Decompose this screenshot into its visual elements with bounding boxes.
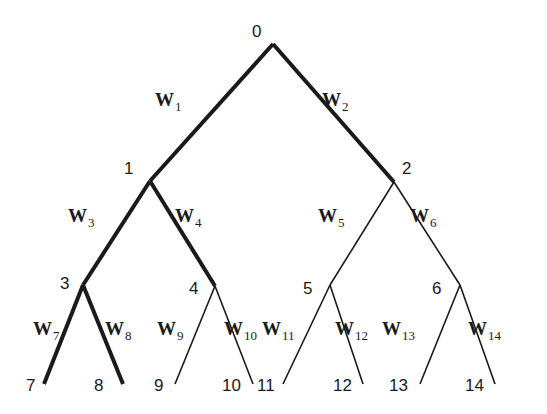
weight-label-w3: W3 [68,205,95,230]
edge-2-6 [394,182,460,285]
weight-subscript: 3 [88,215,95,230]
node-label-5: 5 [303,279,312,298]
node-label-9: 9 [154,376,163,395]
node-label-4: 4 [189,279,198,298]
weight-subscript: 4 [195,215,202,230]
weight-subscript: 10 [244,328,257,343]
node-label-7: 7 [26,376,35,395]
node-label-0: 0 [252,22,261,41]
weight-label-w11: W11 [262,318,295,343]
weight-subscript: 13 [402,328,415,343]
weight-label-w12: W12 [335,318,368,343]
weight-subscript: 12 [355,328,368,343]
weight-label-w5: W5 [318,205,345,230]
node-label-2: 2 [402,159,411,178]
weight-label-w8: W8 [105,318,132,343]
tree-diagram: W1W2W3W4W5W6W7W8W9W10W11W12W13W14 012345… [0,0,547,414]
weight-label-w9: W9 [157,318,184,343]
weight-subscript: 9 [177,328,184,343]
node-label-11: 11 [257,376,275,395]
weight-labels-layer: W1W2W3W4W5W6W7W8W9W10W11W12W13W14 [33,89,502,343]
weight-subscript: 6 [430,215,437,230]
node-label-1: 1 [124,159,133,178]
edge-0-2 [273,44,394,182]
edge-1-3 [83,181,150,285]
edge-2-5 [330,182,394,285]
weight-subscript: 7 [53,328,60,343]
node-label-13: 13 [389,376,408,395]
weight-subscript: 2 [342,99,349,114]
weight-label-w7: W7 [33,318,60,343]
node-label-14: 14 [465,376,484,395]
edge-1-4 [150,181,215,286]
weight-label-w6: W6 [410,205,437,230]
weight-label-w1: W1 [155,89,182,114]
weight-label-w14: W14 [468,318,502,343]
node-label-6: 6 [432,279,441,298]
node-label-8: 8 [94,376,103,395]
edge-6-13 [420,285,460,384]
node-label-3: 3 [60,274,69,293]
weight-subscript: 11 [282,328,295,343]
node-label-10: 10 [222,376,241,395]
weight-subscript: 1 [175,99,182,114]
weight-subscript: 14 [488,328,502,343]
weight-label-w10: W10 [224,318,257,343]
weight-subscript: 8 [125,328,132,343]
tree-diagram-svg: W1W2W3W4W5W6W7W8W9W10W11W12W13W14 012345… [0,0,547,414]
weight-label-w2: W2 [322,89,349,114]
edge-0-1 [150,44,273,181]
weight-subscript: 5 [338,215,345,230]
node-label-12: 12 [333,376,352,395]
weight-label-w13: W13 [382,318,415,343]
